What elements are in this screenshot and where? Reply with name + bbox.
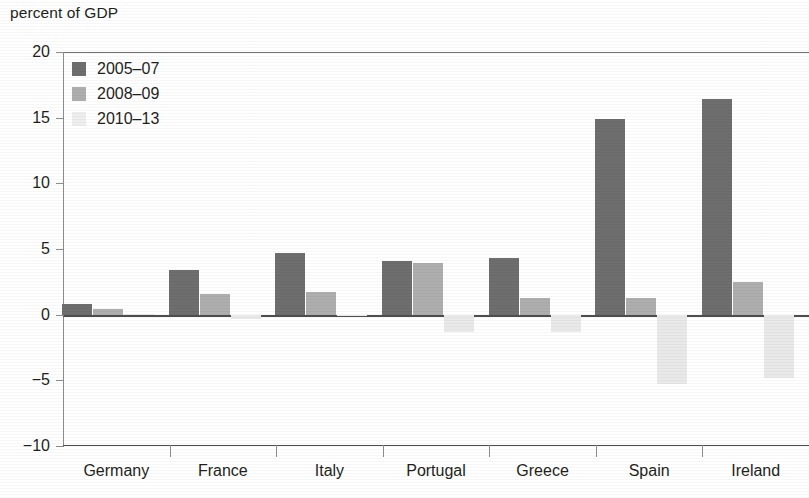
legend-item[interactable]: 2005–07	[72, 58, 159, 80]
x-axis-label: Italy	[315, 462, 344, 480]
bar	[733, 282, 763, 315]
legend-item[interactable]: 2010–13	[72, 108, 159, 130]
bar	[595, 119, 625, 315]
bar	[337, 315, 367, 316]
bar-group	[489, 52, 581, 446]
x-axis-tick	[383, 445, 384, 457]
bar	[275, 253, 305, 315]
bar	[93, 309, 123, 314]
bar	[169, 270, 199, 315]
bar	[200, 294, 230, 315]
bar-group	[275, 52, 367, 446]
bar	[657, 315, 687, 385]
y-axis-label: 10	[0, 174, 50, 192]
legend-item[interactable]: 2008–09	[72, 83, 159, 105]
bar	[489, 258, 519, 314]
y-axis-label: 20	[0, 43, 50, 61]
bar	[626, 298, 656, 315]
y-axis-label: 15	[0, 109, 50, 127]
x-axis-tick	[702, 445, 703, 457]
legend-label: 2005–07	[97, 60, 159, 78]
axis-title: percent of GDP	[10, 4, 118, 22]
x-axis-tick	[489, 445, 490, 457]
bar	[231, 315, 261, 319]
y-axis-label: −5	[0, 371, 50, 389]
legend-label: 2008–09	[97, 85, 159, 103]
legend-swatch-icon	[72, 112, 86, 126]
y-axis-label: 0	[0, 306, 50, 324]
x-axis-label: Ireland	[731, 462, 780, 480]
y-axis-label: −10	[0, 437, 50, 455]
bar	[764, 315, 794, 378]
bar	[520, 298, 550, 315]
bar-chart: percent of GDP 20151050−5−10 GermanyFran…	[0, 0, 809, 498]
bar	[382, 261, 412, 315]
bar	[62, 304, 92, 315]
bar-group	[169, 52, 261, 446]
x-axis-label: Spain	[629, 462, 670, 480]
x-axis-label: Portugal	[406, 462, 466, 480]
x-axis-label: Germany	[83, 462, 149, 480]
bar-group	[382, 52, 474, 446]
legend-label: 2010–13	[97, 110, 159, 128]
bar	[306, 292, 336, 314]
y-axis-label: 5	[0, 240, 50, 258]
x-axis-tick	[170, 445, 171, 457]
legend-swatch-icon	[72, 87, 86, 101]
plot-area	[63, 52, 809, 446]
bar	[702, 99, 732, 314]
bar	[444, 315, 474, 332]
y-axis-tick	[56, 446, 64, 447]
x-axis-tick	[276, 445, 277, 457]
legend: 2005–072008–092010–13	[72, 58, 159, 133]
bar-group	[702, 52, 794, 446]
bar-group	[595, 52, 687, 446]
x-axis-label: Greece	[516, 462, 568, 480]
x-axis-label: France	[198, 462, 248, 480]
legend-swatch-icon	[72, 62, 86, 76]
bar	[413, 263, 443, 314]
bar	[551, 315, 581, 332]
bar	[124, 314, 154, 315]
x-axis-tick	[596, 445, 597, 457]
